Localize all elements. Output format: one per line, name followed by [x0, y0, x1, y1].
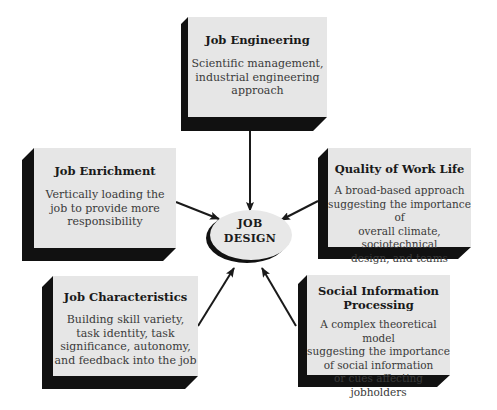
node-description: Building skill variety, task identity, t…: [55, 313, 197, 367]
center-label-line1: JOB: [210, 216, 290, 231]
arrow-job-characteristics: [198, 268, 234, 326]
node-title: Social Information Processing: [318, 284, 439, 312]
node-quality-of-work-life: Quality of Work Life A broad-based appro…: [318, 148, 471, 259]
node-description: Vertically loading the job to provide mo…: [45, 188, 164, 229]
node-title: Job Characteristics: [64, 290, 187, 304]
node-description: A complex theoretical model suggesting t…: [307, 318, 450, 399]
node-title: Job Engineering: [205, 33, 310, 47]
center-label: JOB DESIGN: [210, 216, 290, 246]
node-description: A broad-based approach suggesting the im…: [328, 184, 471, 265]
node-job-characteristics: Job Characteristics Building skill varie…: [42, 276, 198, 389]
node-title: Quality of Work Life: [335, 162, 465, 176]
node-title: Job Enrichment: [54, 164, 155, 178]
node-job-engineering: Job Engineering Scientific management, i…: [181, 17, 327, 131]
arrow-social-information-processing: [262, 268, 296, 326]
center-label-line2: DESIGN: [210, 231, 290, 246]
node-job-enrichment: Job Enrichment Vertically loading the jo…: [22, 148, 176, 261]
node-description: Scientific management, industrial engine…: [192, 57, 324, 98]
node-social-information-processing: Social Information Processing A complex …: [298, 275, 450, 387]
